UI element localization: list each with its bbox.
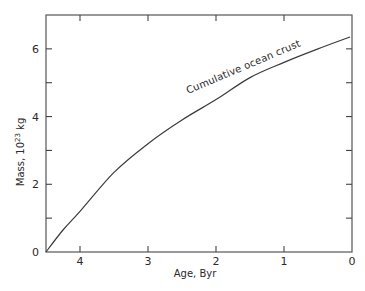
chart: 43210 0246 Cumulative ocean crust Age, B… <box>0 0 365 291</box>
y-axis-tick-labels: 0246 <box>32 43 39 259</box>
x-tick-label: 0 <box>349 255 356 268</box>
cumulative-ocean-crust-curve <box>46 37 350 252</box>
y-tick-label: 6 <box>32 43 39 56</box>
plot-frame <box>46 15 352 252</box>
x-axis-label: Age, Byr <box>174 268 217 279</box>
y-tick-label: 0 <box>32 246 39 259</box>
y-axis-label: Mass, 1023 kg <box>14 118 26 187</box>
y-axis-ticks <box>46 49 352 218</box>
x-tick-label: 1 <box>281 255 288 268</box>
y-tick-label: 4 <box>32 111 39 124</box>
x-axis-tick-labels: 43210 <box>77 255 356 268</box>
curve-annotation: Cumulative ocean crust <box>184 38 302 96</box>
y-axis-label-unit: kg <box>15 118 26 133</box>
y-axis-label-prefix: Mass, 10 <box>15 142 26 186</box>
y-axis-label-exponent: 23 <box>14 133 22 142</box>
x-axis-ticks <box>80 15 284 252</box>
x-tick-label: 2 <box>213 255 220 268</box>
y-tick-label: 2 <box>32 178 39 191</box>
x-tick-label: 3 <box>145 255 152 268</box>
x-tick-label: 4 <box>77 255 84 268</box>
